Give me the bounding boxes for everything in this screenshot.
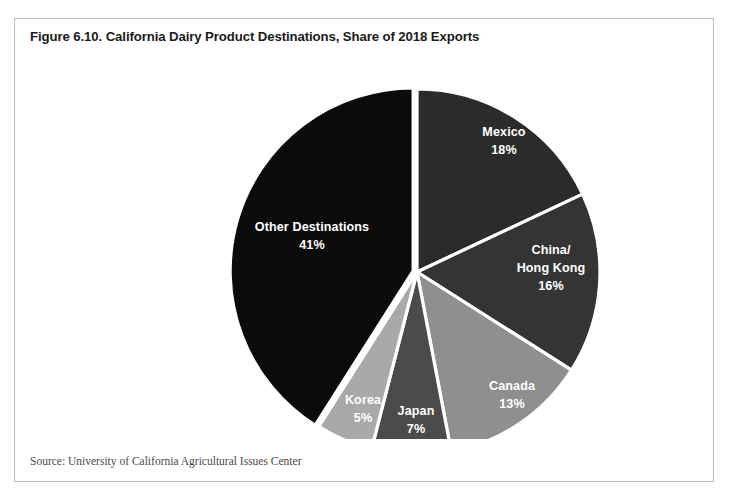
pie-slice-label: Other Destinations41% — [255, 219, 369, 255]
figure-frame: Figure 6.10. California Dairy Product De… — [14, 18, 714, 482]
pie-slice-label-name: Korea — [345, 392, 381, 410]
figure-title: Figure 6.10. California Dairy Product De… — [30, 29, 479, 44]
pie-slice-label-value: 13% — [489, 396, 535, 414]
pie-slice-label: Canada13% — [489, 378, 535, 414]
pie-slice-label-value: 5% — [345, 410, 381, 428]
pie-slice-label-name: China/ — [517, 242, 586, 260]
pie-slice-label-name: Canada — [489, 378, 535, 396]
pie-slice-label-name: Other Destinations — [255, 219, 369, 237]
figure-source: Source: University of California Agricul… — [30, 455, 301, 467]
pie-slice-label-name: Hong Kong — [517, 260, 586, 278]
pie-slice-label-value: 7% — [398, 421, 435, 439]
pie-slice-label: Korea5% — [345, 392, 381, 428]
pie-slice-label: Japan7% — [398, 403, 435, 439]
pie-slice-label-name: Japan — [398, 403, 435, 421]
pie-slice-label-name: Mexico — [482, 124, 525, 142]
pie-slice-label: Mexico18% — [482, 124, 525, 160]
pie-slice-label-value: 41% — [255, 237, 369, 255]
pie-chart: Mexico18%China/Hong Kong16%Canada13%Japa… — [15, 49, 713, 439]
pie-slice-label: China/Hong Kong16% — [517, 242, 586, 296]
pie-slice-label-value: 18% — [482, 142, 525, 160]
pie-slice-label-value: 16% — [517, 278, 586, 296]
